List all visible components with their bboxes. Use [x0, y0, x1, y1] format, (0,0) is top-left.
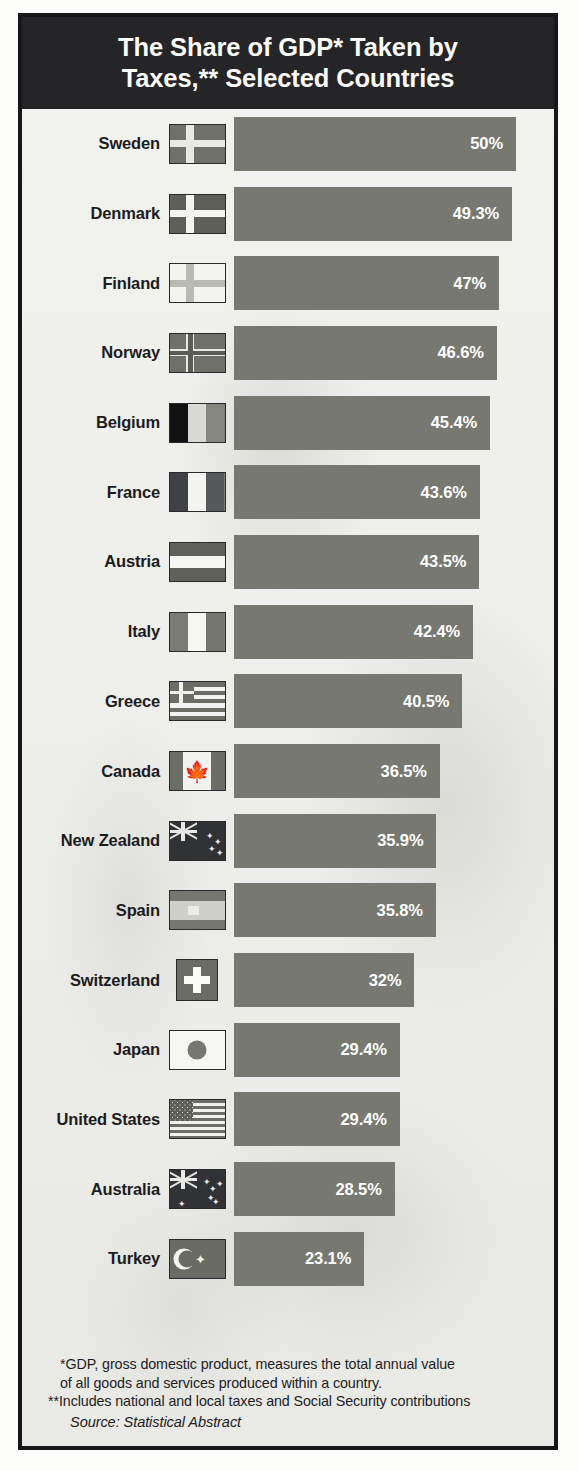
- table-row: Spain35.8%: [22, 876, 554, 946]
- country-label: Belgium: [22, 413, 160, 432]
- flag-cell: [160, 1099, 234, 1139]
- flag-cell: [160, 333, 234, 373]
- bar-cell: 28.5%: [234, 1162, 554, 1216]
- value-bar: 50%: [234, 117, 516, 171]
- country-label: Australia: [22, 1180, 160, 1199]
- bar-value-label: 29.4%: [341, 1110, 387, 1129]
- country-label: Italy: [22, 622, 160, 641]
- flag-france-icon: [169, 472, 226, 512]
- flag-cell: [160, 542, 234, 582]
- country-label: Canada: [22, 762, 160, 781]
- bar-value-label: 43.6%: [421, 483, 467, 502]
- table-row: Greece40.5%: [22, 667, 554, 737]
- bar-cell: 40.5%: [234, 674, 554, 728]
- bar-value-label: 35.9%: [377, 831, 423, 850]
- value-bar: 42.4%: [234, 605, 473, 659]
- value-bar: 43.6%: [234, 465, 480, 519]
- value-bar: 32%: [234, 953, 414, 1007]
- table-row: United States29.4%: [22, 1085, 554, 1155]
- flag-greece-icon: [169, 681, 226, 721]
- value-bar: 35.8%: [234, 883, 436, 937]
- bar-cell: 23.1%: [234, 1232, 554, 1286]
- flag-denmark-icon: [169, 194, 226, 234]
- table-row: Italy42.4%: [22, 597, 554, 667]
- title-banner: The Share of GDP* Taken by Taxes,** Sele…: [22, 17, 554, 109]
- value-bar: 35.9%: [234, 814, 436, 868]
- infographic-poster: The Share of GDP* Taken by Taxes,** Sele…: [0, 0, 578, 1471]
- table-row: New Zealand✦✦✦✦35.9%: [22, 806, 554, 876]
- flag-cell: [160, 472, 234, 512]
- flag-cell: 🍁: [160, 751, 234, 791]
- footnote-gdp-line-2: of all goods and services produced withi…: [48, 1374, 534, 1393]
- country-label: Sweden: [22, 134, 160, 153]
- flag-italy-icon: [169, 612, 226, 652]
- table-row: Canada🍁36.5%: [22, 736, 554, 806]
- country-label: Japan: [22, 1040, 160, 1059]
- bar-cell: 35.8%: [234, 883, 554, 937]
- value-bar: 43.5%: [234, 535, 479, 589]
- value-bar: 40.5%: [234, 674, 462, 728]
- bar-cell: 32%: [234, 953, 554, 1007]
- table-row: Australia✦✦✦✦✦✦28.5%: [22, 1154, 554, 1224]
- flag-cell: [160, 263, 234, 303]
- bar-value-label: 50%: [470, 134, 503, 153]
- country-label: Finland: [22, 274, 160, 293]
- bar-cell: 46.6%: [234, 326, 554, 380]
- flag-australia-icon: ✦✦✦✦✦✦: [169, 1169, 226, 1209]
- value-bar: 23.1%: [234, 1232, 364, 1286]
- country-label: New Zealand: [22, 831, 160, 850]
- value-bar: 45.4%: [234, 396, 490, 450]
- country-label: France: [22, 483, 160, 502]
- bar-value-label: 32%: [369, 971, 402, 990]
- flag-austria-icon: [169, 542, 226, 582]
- flag-cell: [160, 681, 234, 721]
- flag-switzerland-icon: [176, 959, 218, 1001]
- footnote-taxes: **Includes national and local taxes and …: [48, 1392, 534, 1411]
- value-bar: 29.4%: [234, 1092, 400, 1146]
- flag-canada-icon: 🍁: [169, 751, 226, 791]
- flag-japan-icon: [169, 1030, 226, 1070]
- flag-sweden-icon: [169, 124, 226, 164]
- country-label: Greece: [22, 692, 160, 711]
- bar-value-label: 40.5%: [403, 692, 449, 711]
- table-row: Belgium45.4%: [22, 388, 554, 458]
- bar-cell: 29.4%: [234, 1092, 554, 1146]
- flag-cell: ✦✦✦✦: [160, 821, 234, 861]
- table-row: Switzerland32%: [22, 945, 554, 1015]
- bar-cell: 43.6%: [234, 465, 554, 519]
- flag-finland-icon: [169, 263, 226, 303]
- value-bar: 29.4%: [234, 1023, 400, 1077]
- bar-value-label: 23.1%: [305, 1249, 351, 1268]
- bar-value-label: 28.5%: [335, 1180, 381, 1199]
- bar-value-label: 49.3%: [453, 204, 499, 223]
- bar-value-label: 45.4%: [431, 413, 477, 432]
- table-row: Norway46.6%: [22, 318, 554, 388]
- bar-value-label: 46.6%: [438, 343, 484, 362]
- table-row: Sweden50%: [22, 109, 554, 179]
- page-title: The Share of GDP* Taken by Taxes,** Sele…: [104, 32, 472, 94]
- flag-cell: ✦✦✦✦✦✦: [160, 1169, 234, 1209]
- bar-value-label: 42.4%: [414, 622, 460, 641]
- table-row: France43.6%: [22, 457, 554, 527]
- bar-cell: 50%: [234, 117, 554, 171]
- title-line-2: Taxes,** Selected Countries: [122, 64, 455, 92]
- source-note: Source: Statistical Abstract: [48, 1411, 534, 1432]
- country-label: United States: [22, 1110, 160, 1129]
- bar-value-label: 36.5%: [381, 762, 427, 781]
- bar-cell: 36.5%: [234, 744, 554, 798]
- value-bar: 28.5%: [234, 1162, 395, 1216]
- value-bar: 49.3%: [234, 187, 512, 241]
- bar-cell: 29.4%: [234, 1023, 554, 1077]
- flag-united-states-icon: [169, 1099, 226, 1139]
- country-label: Austria: [22, 552, 160, 571]
- value-bar: 46.6%: [234, 326, 497, 380]
- flag-cell: [160, 1030, 234, 1070]
- bar-cell: 35.9%: [234, 814, 554, 868]
- flag-cell: [160, 194, 234, 234]
- bar-cell: 42.4%: [234, 605, 554, 659]
- bar-cell: 49.3%: [234, 187, 554, 241]
- table-row: Japan29.4%: [22, 1015, 554, 1085]
- table-row: Turkey✦23.1%: [22, 1224, 554, 1294]
- flag-cell: [160, 612, 234, 652]
- bar-value-label: 29.4%: [341, 1040, 387, 1059]
